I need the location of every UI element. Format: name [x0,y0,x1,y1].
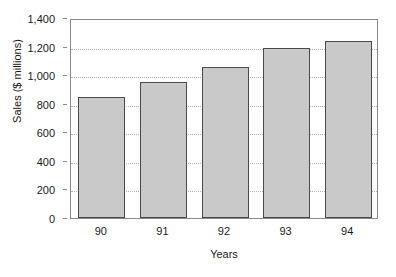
y-axis-tick-label: 200 [37,185,55,196]
x-axis-tick-label: 93 [255,225,317,237]
x-axis-tick-label: 90 [70,225,132,237]
plot-area [70,19,378,219]
bar-chart: 02004006008001,0001,2001,400 Sales ($ mi… [0,0,396,277]
bar [325,41,372,218]
y-axis-tick-label: 0 [49,214,55,225]
bar [263,48,310,218]
x-axis-tick-label: 94 [316,225,378,237]
x-axis-tick-labels: 9091929394 [70,225,378,239]
y-axis-tick-mark [63,47,67,48]
y-axis-tick-mark [63,75,67,76]
bar [78,97,125,218]
y-axis-tick-mark [63,132,67,133]
y-axis-tick-label: 1,400 [27,14,55,25]
bar [202,67,249,218]
y-axis-tick-mark [63,18,67,19]
x-axis-title: Years [70,248,378,260]
y-axis-tick-label: 800 [37,100,55,111]
y-axis-tick-label: 1,200 [27,43,55,54]
y-axis-tick-mark [63,189,67,190]
y-axis-tick-mark [63,218,67,219]
y-axis-tick-mark [63,104,67,105]
y-axis-tick-label: 1,000 [27,71,55,82]
bar [140,82,187,218]
x-axis-tick-label: 91 [132,225,194,237]
y-axis-tick-mark [63,161,67,162]
x-axis-tick-label: 92 [193,225,255,237]
bars-layer [71,20,377,218]
y-axis-tick-label: 400 [37,157,55,168]
y-axis-tick-label: 600 [37,128,55,139]
y-axis-title: Sales ($ millions) [11,1,23,161]
y-axis-tick-labels: 02004006008001,0001,2001,400 [0,19,64,219]
